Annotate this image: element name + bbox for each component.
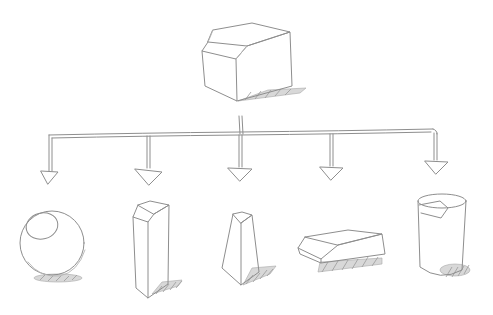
arrow-2 bbox=[135, 136, 162, 185]
root-shadow bbox=[238, 88, 306, 101]
arrow-5 bbox=[425, 133, 448, 174]
child-tall-prism-shape bbox=[133, 201, 182, 298]
child-sphere-shape bbox=[20, 209, 85, 282]
child-cylinder-shape bbox=[418, 194, 470, 277]
root-cube-shape bbox=[202, 23, 306, 101]
child-tapered-prism-shape bbox=[222, 212, 276, 285]
arrow-1 bbox=[41, 135, 58, 184]
child-slab-shape bbox=[298, 230, 385, 272]
branch-connector bbox=[41, 116, 448, 185]
sketch-diagram: chamfered cube bbox=[0, 0, 493, 315]
diagram-svg bbox=[0, 0, 493, 315]
arrow-4 bbox=[320, 134, 343, 180]
arrow-3 bbox=[228, 135, 252, 181]
